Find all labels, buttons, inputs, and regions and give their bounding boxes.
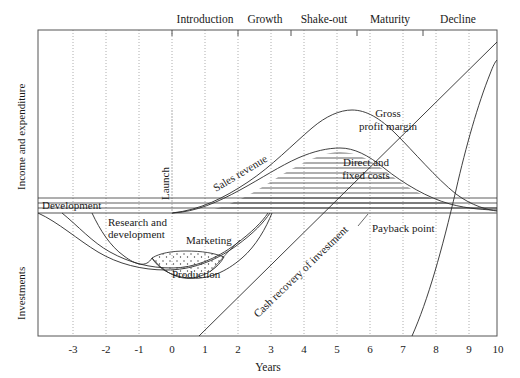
cost-band-extensions bbox=[38, 198, 497, 208]
svg-text:development: development bbox=[108, 228, 165, 240]
x-tick--2: -2 bbox=[101, 343, 110, 355]
svg-text:profit margin: profit margin bbox=[359, 120, 418, 132]
annotation-production: Production bbox=[172, 268, 221, 280]
svg-text:fixed costs: fixed costs bbox=[342, 169, 389, 181]
x-tick-6: 6 bbox=[367, 343, 373, 355]
product-lifecycle-chart: Introduction Growth Shake-out Maturity D… bbox=[0, 0, 520, 378]
x-tick--3: -3 bbox=[68, 343, 78, 355]
plot-frame bbox=[38, 30, 497, 336]
x-tick-9: 9 bbox=[466, 343, 472, 355]
annotation-cash-recovery-of-investment: Cash recovery of investment bbox=[251, 223, 350, 319]
x-tick-0: 0 bbox=[169, 343, 175, 355]
annotation-launch: Launch bbox=[159, 167, 171, 200]
x-tick-1: 1 bbox=[202, 343, 208, 355]
phase-label-decline: Decline bbox=[440, 13, 476, 25]
svg-text:Gross: Gross bbox=[375, 107, 401, 119]
annotation-research-and-development: Research and development bbox=[108, 216, 167, 240]
x-axis-tick-labels: -3 -2 -1 0 1 2 3 4 5 6 7 8 9 10 bbox=[68, 343, 504, 355]
y-axis-label-investments: Investments bbox=[15, 267, 27, 320]
x-tick--1: -1 bbox=[134, 343, 143, 355]
svg-text:Direct and: Direct and bbox=[343, 156, 390, 168]
annotation-direct-and-fixed-costs: Direct and fixed costs bbox=[342, 156, 389, 181]
annotation-marketing: Marketing bbox=[186, 234, 232, 246]
chart-svg: Introduction Growth Shake-out Maturity D… bbox=[0, 0, 520, 378]
annotation-development: Development bbox=[42, 199, 101, 211]
x-tick-4: 4 bbox=[301, 343, 307, 355]
curve-sales-revenue bbox=[172, 110, 497, 213]
annotation-gross-profit-margin: Gross profit margin bbox=[359, 107, 418, 132]
x-tick-10: 10 bbox=[493, 343, 505, 355]
x-tick-7: 7 bbox=[400, 343, 406, 355]
annotation-payback-point: Payback point bbox=[372, 222, 435, 234]
x-axis-title: Years bbox=[255, 361, 281, 373]
phase-label-maturity: Maturity bbox=[370, 13, 410, 26]
x-tick-8: 8 bbox=[433, 343, 439, 355]
phase-label-growth: Growth bbox=[247, 13, 282, 25]
x-tick-2: 2 bbox=[235, 343, 241, 355]
y-axis-label-income-and-expenditure: Income and expenditure bbox=[15, 84, 27, 190]
phase-separators bbox=[172, 30, 423, 36]
curve-cash-recovery-of-investment bbox=[199, 42, 497, 336]
phase-label-introduction: Introduction bbox=[177, 13, 234, 25]
label-leaders bbox=[210, 214, 368, 272]
phase-labels: Introduction Growth Shake-out Maturity D… bbox=[177, 13, 476, 26]
x-tick-3: 3 bbox=[268, 343, 274, 355]
x-tick-5: 5 bbox=[334, 343, 340, 355]
phase-label-shake-out: Shake-out bbox=[301, 13, 348, 25]
svg-text:Research and: Research and bbox=[108, 216, 167, 228]
